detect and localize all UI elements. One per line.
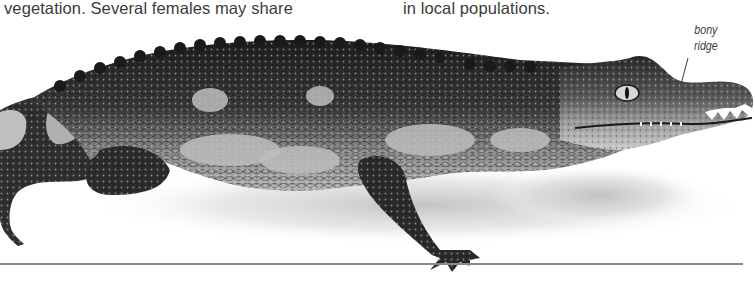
annotation-leader-line <box>681 58 688 84</box>
eye <box>615 85 639 101</box>
crocodilian-illustration <box>0 0 755 287</box>
annotation-label-line2: ridge <box>694 38 718 54</box>
book-page: vegetation. Several females may share in… <box>0 0 755 287</box>
annotation-bony-ridge: bony ridge <box>694 22 718 54</box>
annotation-label-line1: bony <box>694 22 718 38</box>
horizontal-rule <box>0 263 743 265</box>
